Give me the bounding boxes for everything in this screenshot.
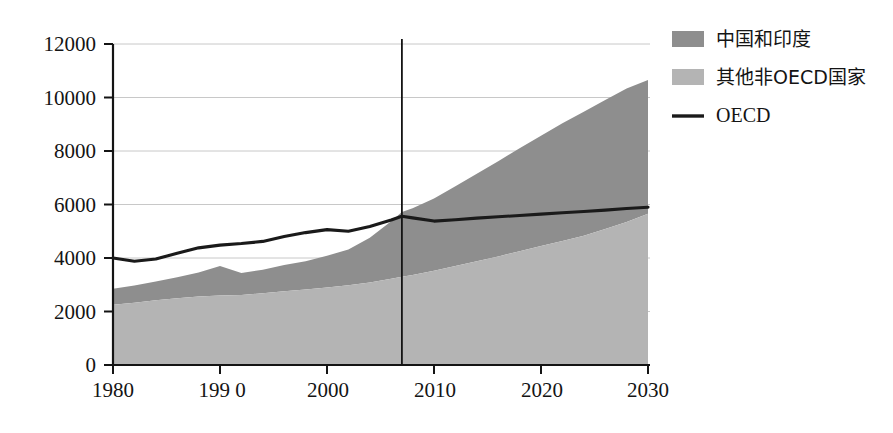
ytick-label-8000: 8000 [54, 139, 96, 163]
xtick-label-2030: 2030 [627, 378, 669, 402]
legend-label-other-non-oecd: 其他非OECD国家 [716, 66, 866, 88]
xtick-label-1980: 1980 [92, 378, 134, 402]
ytick-label-0: 0 [86, 353, 97, 377]
ytick-label-4000: 4000 [54, 246, 96, 270]
xtick-label-2020: 2020 [521, 378, 563, 402]
ytick-label-12000: 12000 [44, 32, 97, 56]
legend-swatch-other-non-oecd [672, 69, 704, 85]
ytick-label-10000: 10000 [44, 86, 97, 110]
legend-label-oecd: OECD [716, 104, 770, 126]
xtick-label-2000: 2000 [307, 378, 349, 402]
legend-label-china-india: 中国和印度 [716, 28, 811, 50]
xtick-label-2010: 2010 [414, 378, 456, 402]
ytick-label-2000: 2000 [54, 300, 96, 324]
chart-canvas: 12000 10000 8000 6000 4000 2000 0 1980 1… [0, 0, 893, 433]
legend-swatch-china-india [672, 31, 704, 47]
xtick-label-1990: 199 0 [198, 378, 245, 402]
chart-figure: 12000 10000 8000 6000 4000 2000 0 1980 1… [0, 0, 893, 433]
ytick-label-6000: 6000 [54, 193, 96, 217]
